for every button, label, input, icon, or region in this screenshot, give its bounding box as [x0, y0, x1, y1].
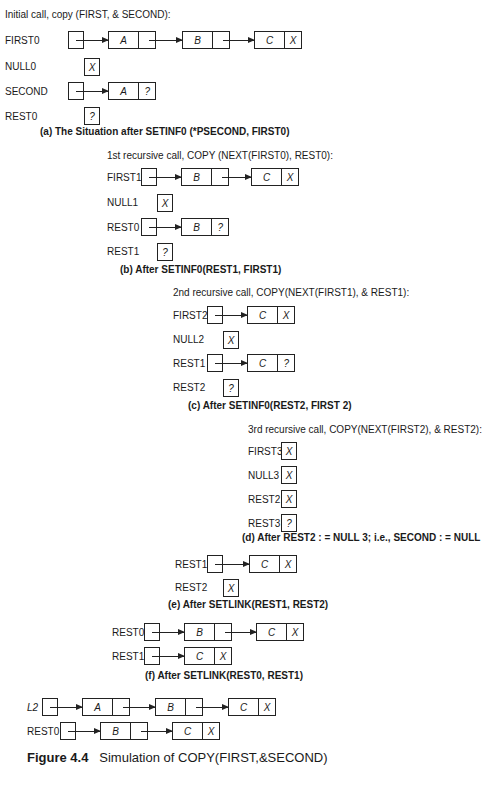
arrow-icon — [128, 707, 155, 708]
value-cell: X — [223, 579, 239, 597]
arrow-icon — [146, 731, 172, 732]
list-node: CX — [249, 555, 297, 573]
arrow-icon — [84, 40, 108, 41]
figure-caption-text: Simulation of COPY(FIRST,&SECOND) — [99, 750, 327, 765]
list-node: B — [100, 722, 148, 740]
figure-caption: Figure 4.4 Simulation of COPY(FIRST,&SEC… — [27, 750, 328, 765]
arrow-icon — [58, 707, 82, 708]
arrow-icon — [223, 363, 247, 364]
value-cell: ? — [223, 379, 239, 397]
arrow-icon — [223, 315, 247, 316]
list-node: A — [108, 31, 156, 49]
panel-b-caption: (b) After SETINF0(REST1, FIRST1) — [120, 264, 281, 275]
list-node: C? — [247, 354, 295, 372]
panel-d-title: 3rd recursive call, COPY(NEXT(FIRST2), &… — [248, 424, 482, 435]
panel-g-label-l2: L2 — [27, 702, 38, 713]
arrow-icon — [223, 564, 249, 565]
list-node: A — [82, 698, 130, 716]
panel-a-label-second: SECOND — [5, 86, 48, 97]
pointer-box — [60, 722, 76, 740]
arrow-icon — [154, 40, 182, 41]
panel-b-label-rest0: REST0 — [107, 222, 139, 233]
pointer-box — [68, 31, 84, 49]
arrow-icon — [227, 177, 251, 178]
list-node: B — [155, 698, 203, 716]
arrow-icon — [157, 177, 181, 178]
pointer-box — [68, 82, 84, 100]
value-cell: X — [223, 331, 239, 349]
pointer-box — [207, 354, 223, 372]
value-cell: X — [281, 490, 297, 508]
value-cell: X — [281, 442, 297, 460]
list-node: A? — [108, 82, 156, 100]
panel-e-label-rest2: REST2 — [175, 582, 207, 593]
arrow-icon — [160, 632, 184, 633]
pointer-box — [144, 647, 160, 665]
panel-c-label-first2: FIRST2 — [173, 310, 207, 321]
arrow-icon — [230, 632, 256, 633]
list-node: CX — [256, 623, 304, 641]
value-cell: ? — [157, 243, 173, 261]
panel-d-caption: (d) After REST2 : = NULL 3; i.e., SECOND… — [242, 532, 480, 543]
pointer-box — [207, 555, 223, 573]
pointer-box — [141, 168, 157, 186]
panel-a-label-rest0: REST0 — [5, 111, 37, 122]
list-node: CX — [184, 647, 232, 665]
panel-a-label-null0: NULL0 — [5, 61, 36, 72]
list-node: B? — [181, 218, 229, 236]
panel-b-label-null1: NULL1 — [107, 197, 138, 208]
panel-g-label-rest0: REST0 — [27, 726, 59, 737]
pointer-box — [144, 623, 160, 641]
pointer-box — [141, 218, 157, 236]
arrow-icon — [160, 656, 184, 657]
panel-d-label-null3: NULL3 — [248, 470, 279, 481]
panel-e-label-rest1: REST1 — [175, 559, 207, 570]
pointer-box — [207, 306, 223, 324]
panel-c-label-rest2: REST2 — [173, 382, 205, 393]
list-node: CX — [254, 31, 302, 49]
panel-f-label-rest0: REST0 — [112, 627, 144, 638]
list-node: B — [181, 168, 229, 186]
panel-a-title: Initial call, copy (FIRST, & SECOND): — [5, 9, 171, 20]
panel-e-caption: (e) After SETLINK(REST1, REST2) — [168, 599, 328, 610]
panel-f-label-rest1: REST1 — [112, 651, 144, 662]
value-cell: X — [157, 194, 173, 212]
panel-d-label-rest3: REST3 — [248, 518, 280, 529]
panel-b-label-first1: FIRST1 — [107, 172, 141, 183]
panel-d-label-rest2: REST2 — [248, 494, 280, 505]
figure-number: Figure 4.4 — [27, 750, 88, 765]
panel-c-title: 2nd recursive call, COPY(NEXT(FIRST1), &… — [173, 287, 409, 298]
value-cell: ? — [84, 107, 100, 125]
panel-a-caption: (a) The Situation after SETINF0 (*PSECON… — [40, 126, 289, 137]
list-node: B — [182, 31, 230, 49]
list-node: CX — [228, 698, 276, 716]
list-node: CX — [172, 722, 220, 740]
arrow-icon — [228, 40, 254, 41]
arrow-icon — [201, 707, 228, 708]
panel-d-label-first3: FIRST3 — [248, 446, 282, 457]
value-cell: X — [84, 58, 100, 76]
list-node: B — [184, 623, 232, 641]
panel-c-label-null2: NULL2 — [173, 334, 204, 345]
list-node: CX — [251, 168, 299, 186]
list-node: CX — [247, 306, 295, 324]
panel-a-label-first0: FIRST0 — [5, 35, 39, 46]
panel-b-title: 1st recursive call, COPY (NEXT(FIRST0), … — [107, 150, 333, 161]
panel-b-label-rest1: REST1 — [107, 246, 139, 257]
panel-f-caption: (f) After SETLINK(REST0, REST1) — [145, 670, 303, 681]
arrow-icon — [84, 91, 108, 92]
value-cell: ? — [281, 514, 297, 532]
arrow-icon — [157, 227, 181, 228]
value-cell: X — [281, 466, 297, 484]
arrow-icon — [76, 731, 100, 732]
pointer-box — [42, 698, 58, 716]
panel-c-caption: (c) After SETINF0(REST2, FIRST 2) — [188, 400, 352, 411]
panel-c-label-rest1: REST1 — [173, 358, 205, 369]
